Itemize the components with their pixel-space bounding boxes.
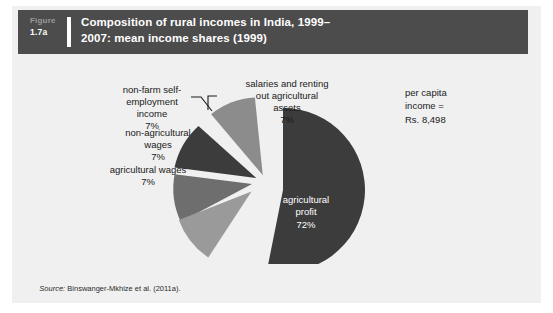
per-capita-income-annotation: per capita income = Rs. 8,498: [405, 86, 525, 126]
pie-chart-area: non-farm self- employment income 7% non-…: [12, 54, 541, 264]
figure-title-line-1: Composition of rural incomes in India, 1…: [81, 15, 520, 31]
source-text: Binswanger-Mkhize et al. (2011a).: [65, 284, 180, 293]
source-note: Source: Binswanger-Mkhize et al. (2011a)…: [31, 275, 181, 302]
figure-title-bar: Figure 1.7a Composition of rural incomes…: [18, 10, 528, 54]
pie-label-agricultural-wages: agricultural wages 7%: [66, 164, 230, 188]
figure-root: Figure 1.7a Composition of rural incomes…: [0, 0, 553, 313]
figure-title-line-2: 2007: mean income shares (1999): [81, 31, 520, 47]
title-divider: [67, 17, 71, 47]
pie-label-nonagricultural-wages: non-agricultural wages 7%: [86, 127, 230, 163]
source-prefix: Source:: [39, 284, 65, 293]
pie-slice-agricultural-profit: [267, 108, 365, 264]
pie-label-salaries-renting: salaries and renting out agricultural as…: [220, 78, 354, 126]
figure-title: Composition of rural incomes in India, 1…: [81, 15, 520, 47]
pie-label-nonfarm-self-employment: non-farm self- employment income 7%: [86, 84, 218, 132]
pie-label-agricultural-profit: agricultural profit 72%: [257, 194, 355, 231]
